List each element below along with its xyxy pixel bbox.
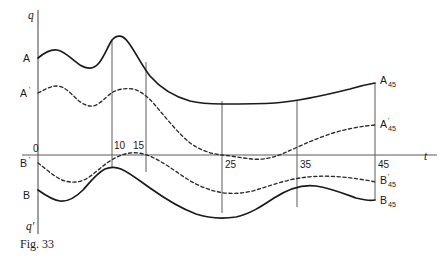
- x-axis-label: t: [424, 150, 428, 162]
- svg-text:45: 45: [388, 80, 396, 89]
- svg-text:45: 45: [388, 180, 396, 189]
- tick-label-15: 15: [133, 140, 145, 151]
- svg-text:45: 45: [388, 124, 396, 133]
- start-label-b: B: [23, 189, 30, 201]
- y-axis-label-negative: q': [26, 220, 35, 233]
- figure-container: q q' t 0 A A ' B ' B A 45 A ' 45 B ' 45: [0, 0, 441, 259]
- end-label-b45: B 45: [380, 194, 396, 209]
- svg-text:45: 45: [388, 200, 396, 209]
- figure-svg: q q' t 0 A A ' B ' B A 45 A ' 45 B ' 45: [0, 0, 441, 259]
- tick-label-35: 35: [300, 159, 312, 170]
- svg-text:': ': [29, 85, 31, 94]
- curve-a: [38, 36, 375, 104]
- svg-text:B: B: [380, 174, 387, 186]
- svg-text:B: B: [380, 194, 387, 206]
- tick-label-45: 45: [378, 159, 390, 170]
- tick-label-25: 25: [225, 159, 237, 170]
- origin-label: 0: [33, 143, 39, 154]
- curve-b: [38, 168, 375, 219]
- end-label-a45: A 45: [380, 74, 396, 89]
- svg-text:A: A: [20, 87, 27, 99]
- start-label-a: A: [23, 52, 30, 64]
- figure-caption: Fig. 33: [20, 237, 54, 251]
- tick-label-10: 10: [114, 140, 126, 151]
- end-label-a-prime-45: A ' 45: [380, 116, 396, 133]
- start-label-b-prime: B ': [20, 155, 31, 169]
- end-label-b-prime-45: B ' 45: [380, 172, 396, 189]
- curve-a-prime: [38, 86, 375, 159]
- y-axis-label: q: [28, 9, 34, 22]
- svg-text:': ': [29, 155, 31, 164]
- svg-text:A: A: [380, 118, 387, 130]
- svg-text:A: A: [380, 74, 387, 86]
- svg-text:B: B: [20, 157, 27, 169]
- start-label-a-prime: A ': [20, 85, 31, 99]
